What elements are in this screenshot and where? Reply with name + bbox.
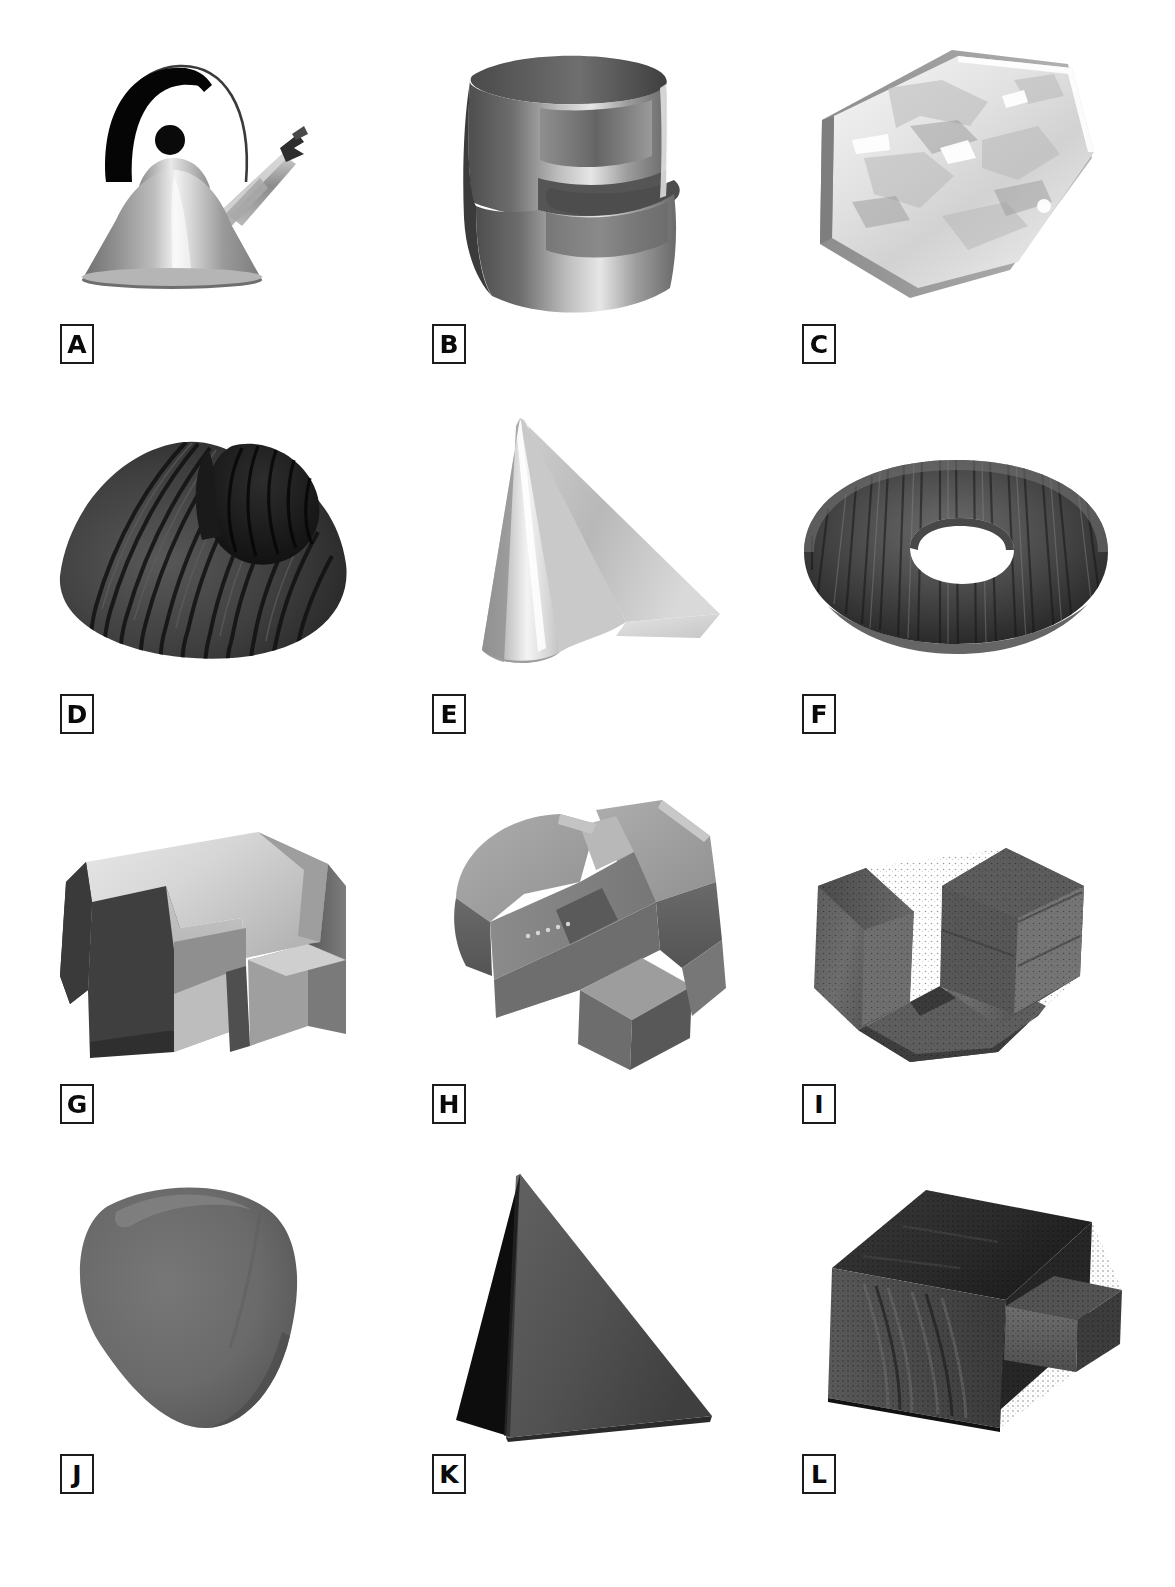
figure-image-hexagonal-slab [792,30,1132,315]
figure-label-a: A [60,324,94,364]
figure-image-rounded-triangular-blob [46,1160,386,1445]
figure-cell-k: K [420,1160,760,1500]
figure-label-d: D [60,694,94,734]
figure-cell-j: J [46,1160,386,1500]
figure-image-ribbed-shell [46,400,386,685]
figure-label-f: F [802,694,836,734]
figure-cell-c: C [792,30,1132,370]
figure-cell-f: F [792,400,1132,740]
figure-image-curved-spiral-extrusion [420,30,760,315]
figure-label-g: G [60,1084,94,1124]
figure-cell-e: E [420,400,760,740]
figure-image-torus [792,400,1132,685]
figure-cell-h: H [420,790,760,1130]
figure-image-c-shaped-cylinder [792,790,1132,1075]
figure-cell-a: A [46,30,386,370]
figure-cell-i: I [792,790,1132,1130]
figure-label-l: L [802,1454,836,1494]
figure-image-teakettle [46,30,386,315]
figure-image-tetrahedron [420,1160,760,1445]
figure-plate: A [0,0,1175,1587]
figure-label-e: E [432,694,466,734]
figure-cell-d: D [46,400,386,740]
figure-image-notched-block [46,790,386,1075]
figure-label-j: J [60,1454,94,1494]
figure-image-box-with-arm [792,1160,1132,1445]
figure-label-i: I [802,1084,836,1124]
figure-cell-l: L [792,1160,1132,1500]
figure-label-h: H [432,1084,466,1124]
figure-cell-g: G [46,790,386,1130]
figure-label-b: B [432,324,466,364]
figure-label-c: C [802,324,836,364]
figure-cell-b: B [420,30,760,370]
figure-image-cone-with-fin [420,400,760,685]
figure-image-interlocked-block [420,790,760,1075]
figure-label-k: K [432,1454,466,1494]
